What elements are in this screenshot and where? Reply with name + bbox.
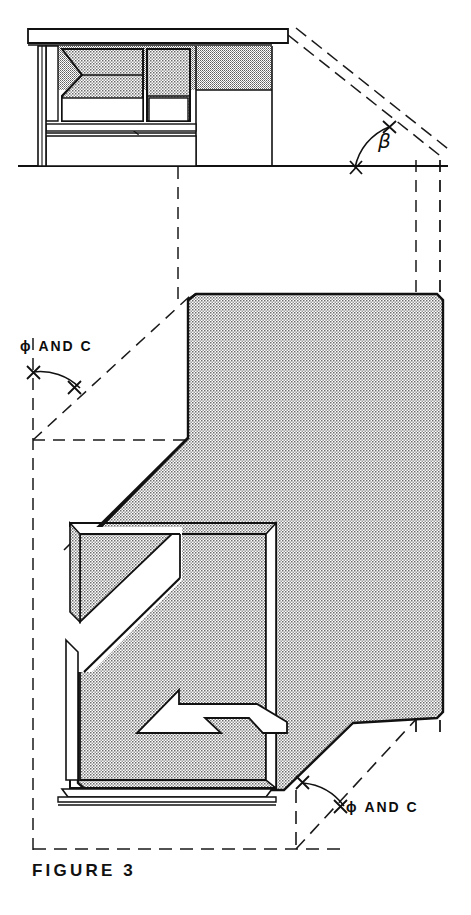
figure-container: β ϕ AND C ϕ AND C FIGURE 3 — [0, 0, 471, 915]
left-pier — [46, 46, 58, 121]
beta-symbol: β — [377, 129, 391, 153]
spandrel-band — [46, 124, 196, 131]
right-wall-shade — [196, 46, 272, 90]
window-lower-light-2 — [149, 98, 188, 121]
figure-caption: FIGURE 3 — [32, 861, 136, 880]
recess-left-reveal — [66, 640, 78, 780]
recess-left-return — [70, 523, 80, 622]
window-lower-light-1 — [62, 98, 143, 121]
technical-drawing-canvas: β ϕ AND C ϕ AND C FIGURE 3 — [0, 0, 471, 915]
phi-and-c-lower-label: ϕ AND C — [346, 799, 419, 815]
roof-slab — [28, 29, 288, 43]
base-plinth-lower — [58, 797, 276, 802]
phi-and-c-upper-label: ϕ AND C — [20, 338, 93, 354]
base-plinth-upper — [62, 789, 272, 797]
building-lower-wall — [46, 136, 196, 166]
recess-right-reveal — [266, 523, 276, 788]
